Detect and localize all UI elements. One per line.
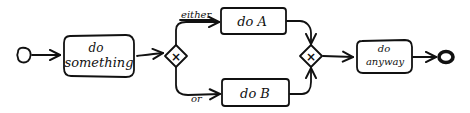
exclusive-gateway-join[interactable]: ×: [300, 45, 322, 67]
task-do-a[interactable]: do A: [221, 8, 286, 34]
sequence-flow-or[interactable]: [176, 67, 220, 95]
task-label: do A: [237, 14, 267, 29]
flow-label-or: or: [191, 93, 203, 104]
sequence-flow-either[interactable]: [176, 22, 219, 45]
flow-label-either: either: [181, 9, 212, 20]
sequence-flow-a-to-join[interactable]: [287, 21, 311, 44]
task-do-b[interactable]: do B: [222, 79, 289, 106]
task-label: do B: [240, 86, 270, 101]
task-label-line1: do: [378, 43, 390, 54]
sequence-flow-task-to-gateway[interactable]: [137, 53, 163, 56]
sequence-flow-b-to-join[interactable]: [290, 68, 311, 94]
gateway-x-icon: ×: [171, 50, 181, 64]
task-label-line1: do: [89, 41, 104, 55]
task-do-anyway[interactable]: do anyway: [357, 40, 412, 73]
task-label-line2: something: [65, 55, 134, 70]
sequence-flow-join-to-task[interactable]: [323, 56, 353, 57]
gateway-x-icon: ×: [306, 50, 316, 64]
exclusive-gateway-split[interactable]: ×: [165, 45, 187, 67]
start-event[interactable]: [17, 48, 30, 63]
bpmn-diagram: do something × either do A or do B × do …: [0, 0, 470, 113]
end-event[interactable]: [439, 52, 453, 63]
task-do-something[interactable]: do something: [64, 35, 134, 77]
task-label-line2: anyway: [366, 56, 405, 67]
